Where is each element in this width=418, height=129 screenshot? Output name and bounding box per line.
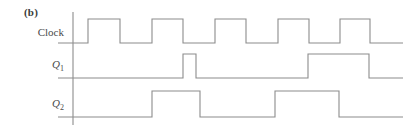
waveform-trace-clock	[58, 19, 403, 43]
waveform-label-q2-subscript: 2	[60, 103, 64, 112]
waveform-trace-q2	[58, 91, 403, 117]
figure-label: (b)	[24, 6, 38, 18]
waveform-label-q1-text: Q	[52, 58, 60, 70]
waveform-label-q2-text: Q	[52, 97, 60, 109]
waveform-label-q1: Q1	[8, 58, 64, 73]
timing-diagram-figure: (b) Clock Q1 Q2	[0, 0, 418, 129]
waveform-label-clock-text: Clock	[38, 26, 64, 38]
waveform-trace-q1	[58, 54, 403, 78]
waveform-label-q1-subscript: 1	[60, 64, 64, 73]
waveform-label-clock: Clock	[8, 26, 64, 38]
waveform-label-q2: Q2	[8, 97, 64, 112]
